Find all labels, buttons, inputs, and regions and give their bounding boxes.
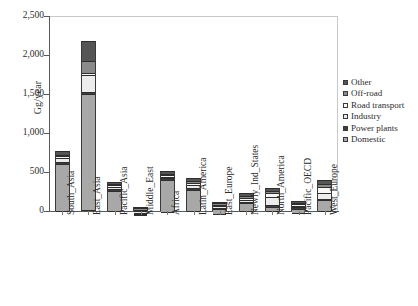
x-tick-label: North_America bbox=[276, 155, 286, 215]
y-axis-tick-labels: 05001,0001,5002,0002,500 bbox=[0, 0, 44, 306]
x-tick-label: Pacific_OECD bbox=[303, 158, 313, 215]
chart-figure: Gg/year 05001,0001,5002,0002,500 South_A… bbox=[0, 0, 418, 306]
bar-segment[interactable] bbox=[82, 41, 95, 61]
legend-swatch-icon bbox=[343, 80, 348, 85]
x-tick-label: South_Asia bbox=[66, 171, 76, 215]
legend-item[interactable]: Industry bbox=[343, 112, 418, 121]
y-tick-label: 2,000 bbox=[0, 49, 44, 59]
x-tick-label: Latin_America bbox=[198, 157, 208, 215]
legend-label: Domestic bbox=[351, 135, 386, 144]
y-tick-label: 0 bbox=[0, 205, 44, 215]
bar-column[interactable] bbox=[160, 16, 175, 211]
x-tick-label: West_Europe bbox=[329, 164, 339, 215]
legend-item[interactable]: Road transport bbox=[343, 101, 418, 110]
legend-swatch-icon bbox=[343, 103, 348, 108]
legend-label: Power plants bbox=[351, 124, 398, 133]
x-tick-label: Pacific_Asia bbox=[119, 166, 129, 215]
legend-item[interactable]: Other bbox=[343, 78, 418, 87]
chart-legend: OtherOff-roadRoad transportIndustryPower… bbox=[343, 78, 418, 146]
y-tick-label: 500 bbox=[0, 166, 44, 176]
legend-swatch-icon bbox=[343, 126, 348, 131]
y-tick-label: 2,500 bbox=[0, 10, 44, 20]
bar-segment[interactable] bbox=[82, 75, 95, 92]
x-tick-label: Middle_East bbox=[145, 166, 155, 215]
legend-swatch-icon bbox=[343, 91, 348, 96]
x-axis-tick-labels: South_AsiaEast_AsiaPacific_AsiaMiddle_Ea… bbox=[49, 215, 338, 305]
y-tick-label: 1,000 bbox=[0, 127, 44, 137]
legend-label: Road transport bbox=[351, 101, 404, 110]
legend-label: Off-road bbox=[351, 89, 382, 98]
legend-item[interactable]: Power plants bbox=[343, 124, 418, 133]
legend-label: Other bbox=[351, 78, 372, 87]
y-tick-mark bbox=[44, 211, 49, 212]
x-tick-label: Newly_Ind_States bbox=[250, 145, 260, 215]
y-tick-label: 1,500 bbox=[0, 88, 44, 98]
legend-item[interactable]: Off-road bbox=[343, 89, 418, 98]
bar-segment[interactable] bbox=[82, 61, 95, 73]
x-tick-label: East_Asia bbox=[92, 176, 102, 215]
legend-swatch-icon bbox=[343, 114, 348, 119]
legend-item[interactable]: Domestic bbox=[343, 135, 418, 144]
legend-swatch-icon bbox=[343, 137, 348, 142]
x-tick-label: East_Europe bbox=[224, 166, 234, 215]
legend-label: Industry bbox=[351, 112, 381, 121]
x-tick-label: Africa bbox=[171, 191, 181, 215]
